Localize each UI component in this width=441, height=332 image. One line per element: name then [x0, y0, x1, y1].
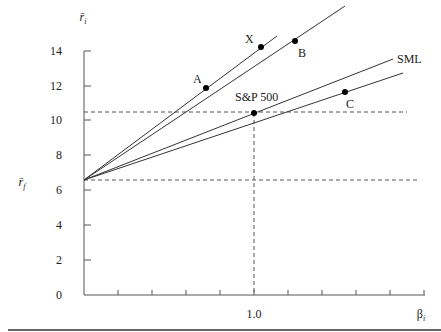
y-tick-10: 10	[50, 113, 62, 127]
y-axis-title: r̄i	[80, 10, 87, 26]
label-x: X	[245, 32, 254, 46]
label-sml: SML	[397, 52, 422, 66]
y-tick-14: 14	[50, 44, 62, 58]
point-sp500	[251, 110, 257, 116]
y-tick-2: 2	[56, 253, 62, 267]
line-a-x	[84, 36, 277, 180]
label-a: A	[193, 72, 202, 86]
point-x	[258, 44, 264, 50]
label-b: B	[298, 46, 306, 60]
y-tick-labels: 0 2 4 6 8 10 12 14	[50, 44, 62, 302]
x-axis-title: βi	[417, 307, 425, 323]
svg-text:r̄f: r̄f	[19, 175, 28, 191]
point-c	[342, 89, 348, 95]
svg-text:βi: βi	[417, 307, 425, 323]
label-c: C	[346, 97, 354, 111]
security-market-line-chart: 0 2 4 6 8 10 12 14 1.0 r̄i r̄f βi	[0, 0, 441, 332]
svg-text:r̄i: r̄i	[80, 10, 87, 26]
x-tick-1-0: 1.0	[247, 307, 262, 321]
y-tick-8: 8	[56, 148, 62, 162]
y-tick-4: 4	[56, 218, 62, 232]
point-a	[203, 85, 209, 91]
point-b	[292, 38, 298, 44]
y-tick-12: 12	[50, 79, 62, 93]
rf-label: r̄f	[19, 175, 28, 191]
label-sp500: S&P 500	[235, 90, 278, 104]
y-tick-6: 6	[56, 183, 62, 197]
y-ticks	[84, 51, 91, 260]
y-tick-0: 0	[56, 288, 62, 302]
x-ticks	[118, 290, 424, 295]
